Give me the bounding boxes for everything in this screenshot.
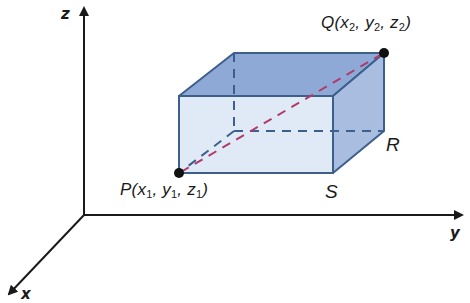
point-Q	[379, 48, 389, 58]
y-axis-label: y	[450, 226, 460, 241]
coordinate-diagram: z y x P(x1, y1, z1) Q(x2, y2, z2) R S	[0, 0, 470, 303]
point-Q-label: Q(x2, y2, z2)	[321, 14, 411, 33]
vertex-R-label: R	[386, 135, 400, 154]
rectangular-box	[174, 48, 389, 178]
point-P	[174, 168, 184, 178]
box-front-face	[179, 96, 333, 173]
vertex-S-label: S	[325, 182, 338, 201]
x-axis	[9, 215, 84, 294]
z-axis-label: z	[61, 7, 70, 22]
x-axis-label: x	[21, 287, 31, 302]
point-P-label: P(x1, y1, z1)	[120, 181, 208, 200]
